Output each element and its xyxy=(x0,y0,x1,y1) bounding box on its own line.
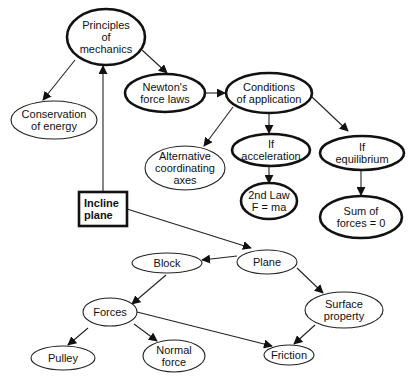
node-label: of energy xyxy=(31,120,77,132)
edge-surface-to-friction xyxy=(294,325,315,344)
node-label: Sum of xyxy=(344,205,380,217)
node-label: plane xyxy=(84,209,113,221)
node-normal: Normalforce xyxy=(143,340,205,372)
node-label: Surface xyxy=(325,298,363,310)
node-second_law: 2nd LawF = ma xyxy=(241,183,297,219)
node-label: force xyxy=(162,356,186,368)
edge-conditions-to-if_equil xyxy=(312,97,348,131)
node-surface: Surfaceproperty xyxy=(305,292,383,328)
node-label: forces = 0 xyxy=(337,217,386,229)
edge-plane-to-surface xyxy=(297,268,323,293)
node-plane: Plane xyxy=(237,250,297,274)
node-label: Block xyxy=(154,257,181,269)
edge-incline-to-plane xyxy=(127,209,251,248)
node-label: Pulley xyxy=(48,352,78,364)
edge-conditions-to-alternative xyxy=(204,107,233,146)
node-conservation: Conservationof energy xyxy=(11,101,97,139)
node-block: Block xyxy=(132,253,202,273)
node-label: acceleration xyxy=(241,150,300,162)
node-incline: Inclineplane xyxy=(79,192,127,226)
edge-plane-to-block xyxy=(202,256,237,260)
node-label: Plane xyxy=(253,256,281,268)
edge-forces-to-normal xyxy=(134,324,157,341)
node-label: Conservation xyxy=(22,108,87,120)
edge-principles-to-conservation xyxy=(43,60,75,100)
node-label: If xyxy=(359,141,366,153)
node-label: Incline xyxy=(84,197,119,209)
node-principles: Principlesofmechanics xyxy=(67,9,145,65)
node-forces: Forces xyxy=(83,298,137,326)
node-label: property xyxy=(324,310,365,322)
node-label: Newton's xyxy=(143,81,188,93)
node-label: Conditions xyxy=(243,81,295,93)
concept-map: PrinciplesofmechanicsConservationof ener… xyxy=(0,0,411,383)
node-label: equilibrium xyxy=(335,153,388,165)
edge-forces-to-friction xyxy=(137,312,272,346)
node-sum_forces: Sum offorces = 0 xyxy=(320,196,402,238)
node-newton: Newton'sforce laws xyxy=(125,74,205,112)
edge-block-to-forces xyxy=(132,275,166,304)
nodes-layer: PrinciplesofmechanicsConservationof ener… xyxy=(11,9,404,372)
node-label: of xyxy=(101,31,111,43)
node-label: of application xyxy=(237,93,302,105)
node-label: If xyxy=(268,138,275,150)
node-if_accel: Ifacceleration xyxy=(232,134,310,166)
node-pulley: Pulley xyxy=(31,346,95,370)
concept-map-canvas: PrinciplesofmechanicsConservationof ener… xyxy=(0,0,411,383)
node-label: 2nd Law xyxy=(248,189,290,201)
node-label: Normal xyxy=(156,344,191,356)
node-alternative: Alternativecoordinatingaxes xyxy=(145,146,225,190)
node-friction: Friction xyxy=(264,345,314,365)
edge-principles-to-newton xyxy=(142,50,167,73)
node-label: axes xyxy=(173,174,197,186)
node-label: force laws xyxy=(140,93,190,105)
node-label: coordinating xyxy=(155,162,215,174)
node-label: Alternative xyxy=(159,150,211,162)
node-label: Forces xyxy=(93,306,127,318)
node-conditions: Conditionsof application xyxy=(226,73,312,113)
node-if_equil: Ifequilibrium xyxy=(320,136,404,170)
edge-forces-to-pulley xyxy=(68,328,88,345)
node-label: F = ma xyxy=(252,201,287,213)
node-label: Principles xyxy=(82,19,130,31)
node-label: Friction xyxy=(271,349,307,361)
node-label: mechanics xyxy=(80,43,133,55)
